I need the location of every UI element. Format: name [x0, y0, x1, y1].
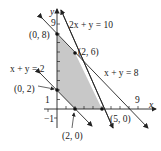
eq-x-plus-y-8: x + y = 8 — [104, 68, 139, 78]
eq-2x-plus-y-10: 2x + y = 10 — [69, 20, 113, 30]
point-2-6-label: (2, 6) — [78, 47, 99, 58]
pointer-0-2 — [38, 86, 54, 89]
x-tick-9: 9 — [135, 95, 140, 105]
y-tick-1: 1 — [45, 95, 50, 105]
point-0-8-label: (0, 8) — [29, 30, 50, 41]
graph: y 9 2x + y = 10 (0, 8) (2, 6) x + y = 8 … — [0, 0, 161, 151]
y-axis-label: y — [49, 7, 55, 17]
x-axis-label: x — [148, 100, 154, 110]
pointer-2-0 — [72, 113, 74, 128]
point-0-2-label: (0, 2) — [14, 84, 35, 95]
point-5-0-label: (5, 0) — [110, 114, 131, 125]
y-tick-neg1: −1 — [44, 114, 54, 124]
eq-x-plus-y-2: x + y = 2 — [10, 64, 45, 74]
y-tick-9: 9 — [51, 18, 56, 28]
point-2-0-label: (2, 0) — [62, 131, 83, 142]
